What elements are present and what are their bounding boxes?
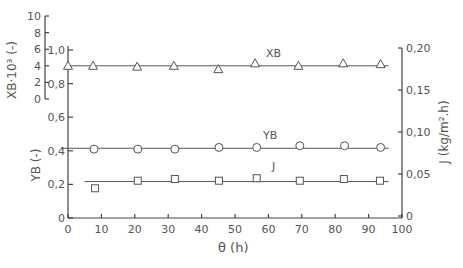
data-markers [64, 59, 386, 192]
series-label-yb: YB [262, 129, 277, 142]
x-tick-label: 60 [261, 223, 275, 236]
square-marker [171, 176, 178, 183]
left-inner-axis-label: YB (-) [29, 148, 43, 182]
series-label-j: J [271, 160, 275, 173]
x-tick-label: 100 [392, 223, 413, 236]
fit-lines [61, 66, 388, 182]
triangle-marker [376, 60, 385, 68]
right-axis-label: J (kg/m².h) [437, 100, 451, 164]
chart: 010203040506070809010000,20,40,60,81,002… [0, 0, 463, 268]
x-tick-label: 90 [362, 223, 376, 236]
circle-marker [171, 145, 179, 153]
x-tick-label: 30 [161, 223, 175, 236]
square-marker [134, 177, 141, 184]
yb-tick-label: 0,6 [48, 111, 66, 124]
yb-tick-label: 0,8 [48, 78, 66, 91]
x-tick-label: 0 [65, 223, 72, 236]
xb-tick-label: 8 [34, 27, 41, 40]
square-marker [253, 175, 260, 182]
square-marker [376, 177, 383, 184]
yb-tick-label: 0,2 [48, 178, 66, 191]
x-tick-label: 50 [228, 223, 242, 236]
j-tick-label: 0,20 [406, 42, 431, 55]
x-tick-label: 40 [195, 223, 209, 236]
triangle-marker [339, 59, 348, 67]
x-axis-label: θ (h) [218, 240, 248, 255]
xb-tick-label: 6 [34, 43, 41, 56]
j-tick-label: 0 [406, 210, 413, 223]
xb-tick-label: 10 [27, 10, 41, 23]
x-tick-label: 10 [94, 223, 108, 236]
series-label-xb: XB [266, 47, 281, 60]
circle-marker [341, 142, 349, 150]
square-marker [215, 177, 222, 184]
x-tick-label: 20 [128, 223, 142, 236]
circle-marker [253, 143, 261, 151]
square-marker [296, 177, 303, 184]
x-tick-label: 70 [295, 223, 309, 236]
tick-labels: 010203040506070809010000,20,40,60,81,002… [27, 10, 431, 236]
triangle-marker [251, 59, 260, 67]
xb-tick-label: 2 [34, 76, 41, 89]
yb-tick-label: 0 [58, 212, 65, 225]
circle-marker [215, 143, 223, 151]
left-outer-axis-label: XB·10³ (-) [5, 41, 19, 99]
yb-tick-label: 0,4 [48, 145, 66, 158]
square-marker [340, 176, 347, 183]
circle-marker [90, 145, 98, 153]
circle-marker [296, 142, 304, 150]
circle-marker [134, 145, 142, 153]
circle-marker [377, 143, 385, 151]
x-tick-label: 80 [328, 223, 342, 236]
square-marker [92, 185, 99, 192]
j-tick-label: 0,05 [406, 168, 431, 181]
xb-tick-label: 4 [34, 60, 41, 73]
j-tick-label: 0,15 [406, 84, 431, 97]
xb-tick-label: 0 [34, 93, 41, 106]
yb-tick-label: 1,0 [48, 44, 66, 57]
j-tick-label: 0,10 [406, 126, 431, 139]
